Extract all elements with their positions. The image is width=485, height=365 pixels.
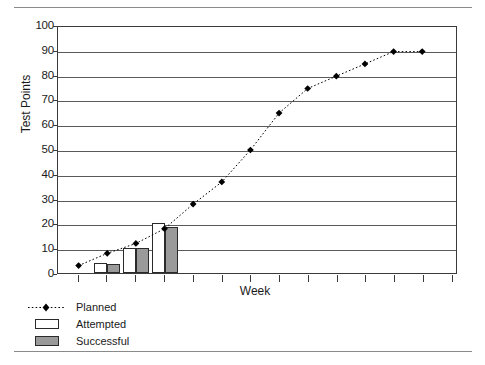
planned-data-marker [276,110,283,117]
y-axis-tick-label: 40 [20,169,54,181]
legend-marker-bar-icon [24,317,68,332]
x-axis-tick-mark [106,275,107,282]
legend-item: Successful [24,334,194,351]
y-axis-tick-mark [53,274,57,275]
legend-item-label: Successful [76,336,129,347]
gridline [58,225,456,226]
x-axis-tick-mark [78,275,79,282]
bar-successful [165,227,178,273]
figure: Test Points Week 1009080706050403020100 … [0,0,485,365]
plot-area [57,26,457,274]
legend-item: Attempted [24,317,194,334]
legend-swatch-successful-icon [35,336,59,346]
legend-item-label: Planned [76,302,116,313]
y-axis-tick-label: 20 [20,218,54,230]
gridline [58,101,456,102]
y-axis-tick-label: 0 [20,268,54,280]
planned-data-marker [132,240,139,247]
x-axis-tick-mark [222,275,223,282]
bottom-divider-rule [14,351,472,352]
top-divider-rule [14,7,472,8]
planned-data-markers [75,48,425,269]
y-axis-tick-label: 70 [20,94,54,106]
y-axis-tick-label: 90 [20,45,54,57]
x-axis-tick-mark [250,275,251,282]
bar-successful [107,264,120,273]
x-axis-tick-mark [135,275,136,282]
gridline [58,52,456,53]
planned-data-marker [75,262,82,269]
x-axis-tick-mark [279,275,280,282]
y-axis-tick-label: 100 [20,20,54,32]
gridline [58,126,456,127]
y-axis-tick-label: 30 [20,194,54,206]
legend: PlannedAttemptedSuccessful [24,300,194,351]
x-axis-tick-mark [308,275,309,282]
legend-marker-planned-icon [24,300,68,315]
x-axis-title: Week [200,285,310,297]
planned-data-marker [362,61,369,68]
gridline [58,77,456,78]
x-axis-tick-mark [394,275,395,282]
bar-successful [136,248,149,273]
planned-line-path [79,52,423,266]
planned-data-marker [218,179,225,186]
legend-marker-bar-icon [24,334,68,349]
gridline [58,201,456,202]
bar-attempted [123,248,136,273]
planned-line-series [58,27,456,273]
gridline [58,250,456,251]
x-axis-tick-mark [452,275,453,282]
legend-item-label: Attempted [76,319,126,330]
planned-data-marker [247,147,254,154]
bar-attempted [152,223,165,273]
x-axis-tick-mark [365,275,366,282]
y-axis-tick-label: 60 [20,119,54,131]
gridline [58,151,456,152]
planned-data-marker [190,201,197,208]
gridline [58,176,456,177]
x-axis-tick-mark [423,275,424,282]
y-axis-tick-label: 80 [20,70,54,82]
legend-item: Planned [24,300,194,317]
x-axis-tick-mark [193,275,194,282]
y-axis-tick-label: 50 [20,144,54,156]
bar-attempted [94,263,107,273]
x-axis-tick-mark [337,275,338,282]
planned-data-marker [304,85,311,92]
x-axis-tick-mark [164,275,165,282]
y-axis-tick-label: 10 [20,243,54,255]
legend-swatch-attempted-icon [35,319,59,329]
